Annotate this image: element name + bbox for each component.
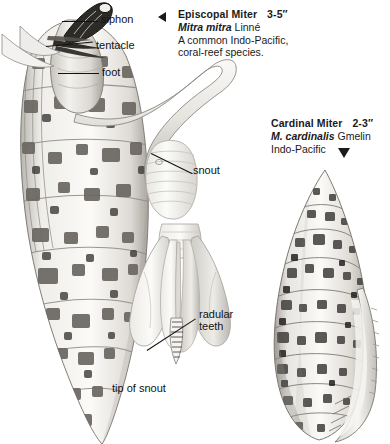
figure-snout-detail	[132, 138, 218, 224]
callout-label-tip-of-snout: tip of snout	[112, 382, 166, 394]
callout-label-snout: snout	[193, 164, 220, 176]
cardinal-description-line-1: Indo-Pacific	[271, 143, 373, 156]
episcopal-common-name: Episcopal Miter	[178, 8, 257, 20]
leader-line-foot	[58, 73, 99, 74]
figure-radula-detail	[122, 222, 238, 372]
episcopal-scientific-name: Mitra mitra	[178, 21, 232, 33]
cardinal-size: 2-3″	[352, 117, 373, 129]
callout-label-radular-line-1: radular	[199, 308, 233, 320]
pointer-triangle-left-episcopal	[158, 12, 166, 22]
episcopal-description-line-1: A common Indo-Pacific,	[178, 34, 288, 47]
callout-label-siphon: siphon	[101, 13, 133, 25]
episcopal-description-line-2: coral-reef species.	[178, 46, 288, 59]
callout-label-radular-teeth: radular teeth	[199, 308, 233, 333]
species-block-episcopal-miter: Episcopal Miter3-5″ Mitra mitra Linné A …	[178, 8, 288, 59]
callout-label-foot: foot	[102, 66, 120, 78]
pointer-triangle-down-cardinal	[338, 148, 350, 158]
episcopal-authority: Linné	[235, 21, 261, 33]
figure-cardinal-shell	[251, 168, 390, 444]
leader-line-siphon	[62, 21, 98, 22]
cardinal-common-name-line: Cardinal Miter2-3″	[271, 117, 373, 130]
illustration-plate: Episcopal Miter3-5″ Mitra mitra Linné A …	[0, 0, 390, 444]
episcopal-size: 3-5″	[267, 8, 288, 20]
callout-label-radular-line-2: teeth	[199, 320, 233, 332]
episcopal-scientific-line: Mitra mitra Linné	[178, 21, 288, 34]
cardinal-authority: Gmelin	[338, 130, 371, 142]
cardinal-scientific-line: M. cardinalis Gmelin	[271, 130, 373, 143]
cardinal-common-name: Cardinal Miter	[271, 117, 342, 129]
episcopal-common-name-line: Episcopal Miter3-5″	[178, 8, 288, 21]
cardinal-scientific-name: M. cardinalis	[271, 130, 335, 142]
callout-label-tentacle: tentacle	[96, 39, 135, 51]
species-block-cardinal-miter: Cardinal Miter2-3″ M. cardinalis Gmelin …	[271, 117, 373, 155]
